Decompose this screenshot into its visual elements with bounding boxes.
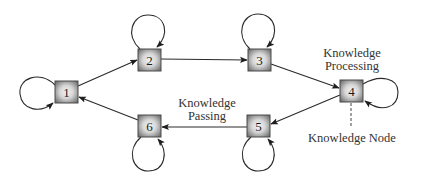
edge-2-to-3 xyxy=(161,59,247,60)
node-5-label: 5 xyxy=(255,119,262,134)
edge-4-to-5 xyxy=(271,95,340,124)
annotation-knowledge-node: Knowledge Node xyxy=(308,131,396,145)
passing-label-line1: Knowledge xyxy=(178,96,236,110)
passing-label-line2: Passing xyxy=(188,109,227,123)
node-4: 4 xyxy=(340,80,363,102)
self-loop-6 xyxy=(132,137,164,171)
node-6-label: 6 xyxy=(146,119,153,134)
edge-6-to-1 xyxy=(79,97,138,120)
self-loop-4 xyxy=(363,78,398,107)
self-loop-3 xyxy=(242,14,275,49)
node-2-label: 2 xyxy=(146,53,153,68)
node-3: 3 xyxy=(248,49,271,71)
edge-1-to-2 xyxy=(78,60,137,86)
knowledge-node-label: Knowledge Node xyxy=(308,131,396,145)
self-loop-5 xyxy=(242,137,274,171)
annotation-knowledge-processing: Knowledge Processing xyxy=(323,46,381,73)
node-6: 6 xyxy=(138,115,161,137)
self-loop-1 xyxy=(20,77,55,109)
node-2: 2 xyxy=(138,49,161,71)
knowledge-flow-diagram: 1 2 3 4 5 6 Knowledge Processing Knowled… xyxy=(0,0,429,183)
processing-label-line1: Knowledge xyxy=(323,46,381,60)
node-4-label: 4 xyxy=(348,84,355,99)
node-5: 5 xyxy=(247,115,270,137)
processing-label-line2: Processing xyxy=(325,59,380,73)
self-loop-2 xyxy=(132,15,165,49)
node-1: 1 xyxy=(55,81,78,103)
node-1-label: 1 xyxy=(63,85,70,100)
node-3-label: 3 xyxy=(256,53,263,68)
annotation-knowledge-passing: Knowledge Passing xyxy=(178,96,236,123)
